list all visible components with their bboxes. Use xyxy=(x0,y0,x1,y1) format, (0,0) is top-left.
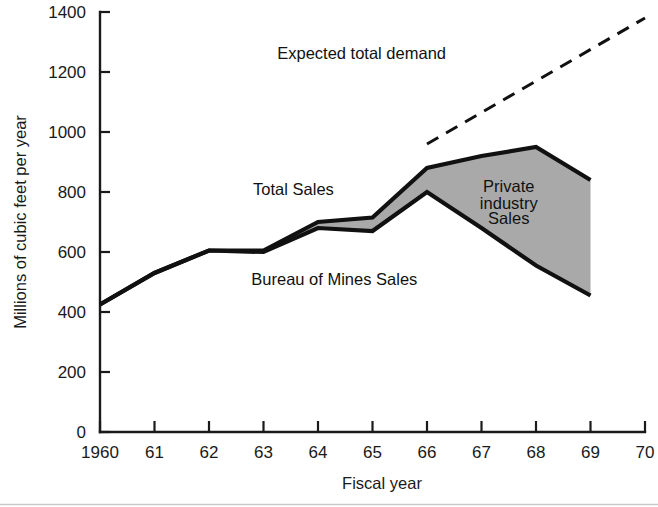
x-tick-label: 1960 xyxy=(81,443,119,462)
y-tick-label: 400 xyxy=(58,303,86,322)
annotation-total-sales: Total Sales xyxy=(253,180,334,198)
chart-figure: 0200400600800100012001400 19606162636465… xyxy=(0,0,658,507)
x-axis-tick-labels: 196061626364656667686970 xyxy=(81,443,654,462)
annotation-expected-total-demand: Expected total demand xyxy=(277,44,446,62)
x-axis-ticks xyxy=(100,421,645,432)
y-tick-label: 200 xyxy=(58,363,86,382)
y-tick-label: 0 xyxy=(77,423,86,442)
annotation-bureau-of-mines-sales: Bureau of Mines Sales xyxy=(251,270,417,288)
x-tick-label: 70 xyxy=(636,443,655,462)
x-tick-label: 64 xyxy=(309,443,328,462)
expected-total-demand-dashed-line xyxy=(427,18,645,144)
y-axis-ticks xyxy=(100,12,110,432)
x-tick-label: 61 xyxy=(145,443,164,462)
x-tick-label: 68 xyxy=(527,443,546,462)
x-tick-label: 67 xyxy=(472,443,491,462)
x-tick-label: 66 xyxy=(418,443,437,462)
x-tick-label: 69 xyxy=(581,443,600,462)
y-tick-label: 1400 xyxy=(48,3,86,22)
y-tick-label: 1000 xyxy=(48,123,86,142)
line-area-chart-canvas: 0200400600800100012001400 19606162636465… xyxy=(0,0,658,507)
y-tick-label: 1200 xyxy=(48,63,86,82)
y-tick-label: 600 xyxy=(58,243,86,262)
x-tick-label: 63 xyxy=(254,443,273,462)
y-tick-label: 800 xyxy=(58,183,86,202)
x-axis-title: Fiscal year xyxy=(342,474,422,492)
y-axis-tick-labels: 0200400600800100012001400 xyxy=(48,3,86,442)
annotation-private-industry-sales-3: Sales xyxy=(488,209,529,227)
y-axis-title: Millions of cubic feet per year xyxy=(11,115,29,329)
annotation-private-industry-sales-1: Private xyxy=(483,177,534,195)
x-tick-label: 62 xyxy=(200,443,219,462)
x-tick-label: 65 xyxy=(363,443,382,462)
